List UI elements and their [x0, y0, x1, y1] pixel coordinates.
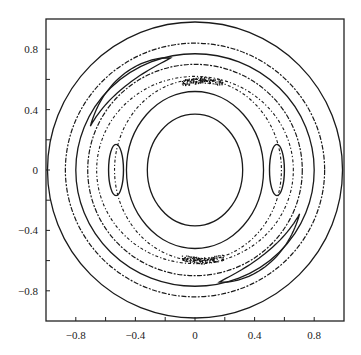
- ring-2-curve: [76, 54, 314, 287]
- y-axis: 0.80.40−0.4−0.8: [18, 43, 50, 297]
- y-tick-label: 0.4: [24, 104, 38, 116]
- x-tick-label: 0.4: [248, 329, 262, 341]
- outer-orbit-curve: [47, 22, 342, 318]
- x-tick-label: 0.8: [307, 329, 321, 341]
- x-tick-label: −0.8: [66, 329, 86, 341]
- inner-orbit-1-curve: [147, 114, 242, 226]
- y-tick-label: −0.8: [18, 285, 38, 297]
- plot-area: [47, 22, 342, 318]
- right-island: [270, 144, 285, 195]
- y-tick-label: 0: [33, 164, 39, 176]
- y-tick-label: 0.8: [24, 43, 38, 55]
- x-tick-label: 0: [192, 329, 198, 341]
- x-tick-label: −0.4: [125, 329, 145, 341]
- ring-3-curve: [65, 43, 324, 297]
- y-tick-label: −0.4: [18, 224, 38, 236]
- separatrix-inner-curve: [115, 79, 282, 260]
- phase-portrait-chart: −0.8−0.400.40.8 0.80.40−0.4−0.8: [0, 0, 361, 355]
